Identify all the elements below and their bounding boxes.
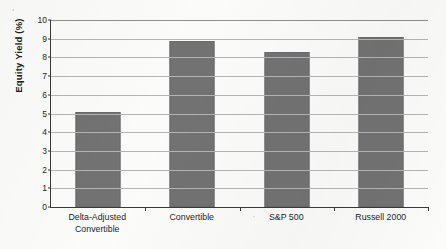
y-tick-mark <box>48 169 52 170</box>
gridline <box>51 20 428 21</box>
x-tick-mark <box>334 207 335 211</box>
gridline <box>51 170 428 171</box>
gridline <box>51 39 428 40</box>
x-tick-mark <box>240 207 241 211</box>
y-tick-mark <box>48 94 52 95</box>
y-tick-mark <box>48 76 52 77</box>
gridline <box>51 114 428 115</box>
gridline <box>51 188 428 189</box>
y-tick-mark <box>48 20 52 21</box>
x-axis-label: Convertible <box>145 212 240 235</box>
bar-convertible[interactable] <box>170 41 215 207</box>
y-tick-label: 6 <box>42 90 47 100</box>
x-axis-label: Delta-AdjustedConvertible <box>50 212 145 235</box>
y-tick-label: 10 <box>38 15 47 25</box>
bar-russell-2000[interactable] <box>358 37 403 207</box>
y-tick-mark <box>48 113 52 114</box>
y-tick-mark <box>48 38 52 39</box>
y-tick-mark <box>48 188 52 189</box>
y-tick-mark <box>48 132 52 133</box>
y-tick-label: 9 <box>42 34 47 44</box>
gridline <box>51 151 428 152</box>
plot-area: 109876543210 <box>50 20 428 208</box>
y-tick-mark <box>48 207 52 208</box>
x-axis-end-tick <box>428 207 429 211</box>
gridline <box>51 95 428 96</box>
gridline <box>51 57 428 58</box>
x-axis-label: S&P 500 <box>239 212 334 235</box>
y-axis-title: Equity Yield (%) <box>13 0 24 117</box>
bar-chart: Equity Yield (%) 109876543210 Delta-Adju… <box>0 0 446 249</box>
x-axis-labels: Delta-AdjustedConvertibleConvertibleS&P … <box>50 212 428 235</box>
y-tick-mark <box>48 57 52 58</box>
y-tick-label: 2 <box>42 165 47 175</box>
gridline <box>51 132 428 133</box>
bar-delta-adjusted-convertible[interactable] <box>76 112 121 207</box>
y-tick-label: 4 <box>42 127 47 137</box>
bar-s-p-500[interactable] <box>264 52 309 207</box>
y-tick-label: 7 <box>42 71 47 81</box>
y-tick-label: 3 <box>42 146 47 156</box>
x-axis-label: Russell 2000 <box>334 212 429 235</box>
y-tick-label: 5 <box>42 109 47 119</box>
y-tick-label: 1 <box>42 183 47 193</box>
x-tick-mark <box>145 207 146 211</box>
y-tick-mark <box>48 150 52 151</box>
y-tick-label: 8 <box>42 52 47 62</box>
gridline <box>51 76 428 77</box>
y-tick-label: 0 <box>42 202 47 212</box>
